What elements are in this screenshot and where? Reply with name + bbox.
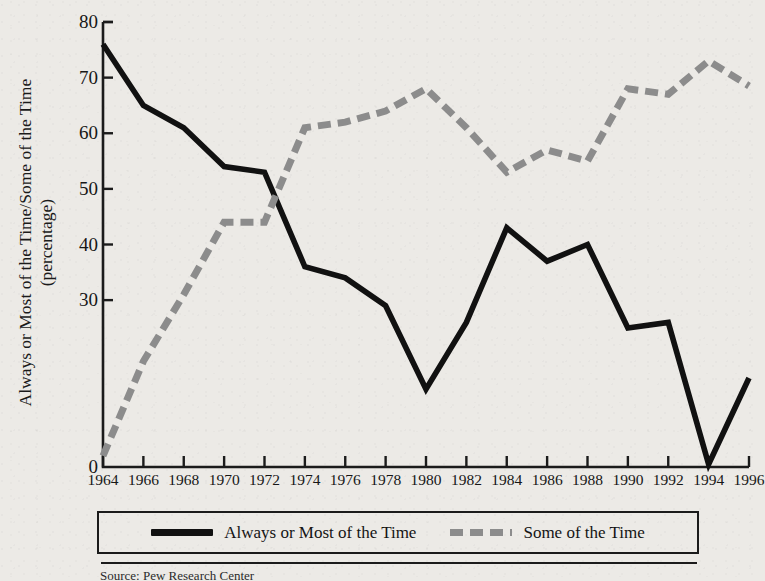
x-tick-label: 1994: [693, 471, 724, 489]
y-axis-tick-labels: 0304050607080: [52, 22, 98, 467]
legend-swatch-solid-icon: [151, 529, 213, 536]
x-tick-label: 1984: [491, 471, 522, 489]
x-tick-label: 1970: [209, 471, 240, 489]
x-axis-tick-labels: 1964196619681970197219741976197819801982…: [0, 471, 763, 495]
y-tick-label: 70: [58, 67, 98, 89]
x-axis-ticks: [103, 456, 749, 467]
data-series-group: [103, 44, 749, 464]
x-tick-label: 1980: [411, 471, 442, 489]
y-axis-ticks: [103, 22, 113, 300]
x-tick-label: 1986: [532, 471, 563, 489]
legend-entry-always-or-most: Always or Most of the Time: [151, 523, 416, 543]
series-line-some-of-the-time: [103, 61, 749, 456]
series-line-always-or-most: [103, 44, 749, 464]
y-tick-label: 30: [58, 289, 98, 311]
x-tick-label: 1968: [168, 471, 199, 489]
y-tick-label: 60: [58, 122, 98, 144]
y-tick-label: 50: [58, 178, 98, 200]
x-tick-label: 1996: [734, 471, 765, 489]
legend-label-always-or-most: Always or Most of the Time: [224, 523, 416, 543]
y-tick-label: 80: [58, 11, 98, 33]
plot-area: [103, 22, 749, 467]
x-tick-label: 1964: [88, 471, 119, 489]
y-axis-title: Always or Most of the Time/Some of the T…: [15, 13, 56, 473]
legend-label-some-of-the-time: Some of the Time: [523, 523, 644, 543]
footnote-text: Source: Pew Research Center: [100, 568, 700, 581]
x-tick-label: 1974: [289, 471, 320, 489]
footnote-rule: [101, 562, 697, 564]
chart-svg: [103, 22, 749, 467]
chart-legend: Always or Most of the Time Some of the T…: [97, 511, 699, 554]
x-tick-label: 1982: [451, 471, 482, 489]
x-tick-label: 1990: [612, 471, 643, 489]
x-tick-label: 1976: [330, 471, 361, 489]
x-tick-label: 1992: [653, 471, 684, 489]
x-tick-label: 1978: [370, 471, 401, 489]
legend-swatch-dashed-icon: [450, 529, 512, 536]
y-tick-label: 40: [58, 234, 98, 256]
x-tick-label: 1972: [249, 471, 280, 489]
y-axis-title-line-1: Always or Most of the Time/Some of the T…: [15, 13, 36, 473]
x-tick-label: 1966: [128, 471, 159, 489]
x-tick-label: 1988: [572, 471, 603, 489]
legend-entry-some-of-the-time: Some of the Time: [450, 523, 644, 543]
